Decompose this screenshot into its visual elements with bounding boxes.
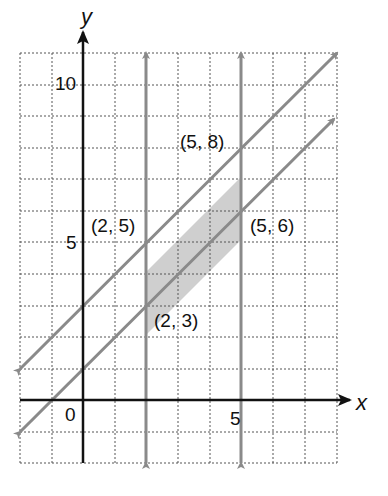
line-y-equals-x-plus-1 [20,119,334,432]
chart: x y 0 5 5 10 (2, 5) (5, 8) (5, 6) (2, 3) [0,0,388,496]
grid [20,53,337,463]
point-label-5-8: (5, 8) [180,131,224,152]
point-label-5-6: (5, 6) [250,215,294,236]
x-axis-label: x [355,390,368,415]
tick-x-5: 5 [230,408,241,429]
point-label-2-5: (2, 5) [91,215,135,236]
tick-y-10: 10 [55,73,76,94]
tick-x-0: 0 [65,404,76,425]
y-axis-label: y [79,4,94,29]
point-label-2-3: (2, 3) [154,310,198,331]
tick-y-5: 5 [66,232,77,253]
